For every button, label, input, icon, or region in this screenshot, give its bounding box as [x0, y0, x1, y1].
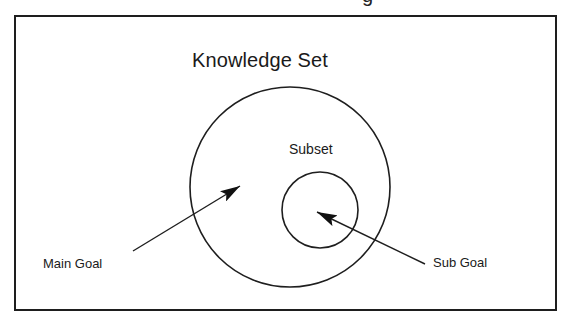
main-goal-label: Main Goal	[43, 257, 102, 270]
sub-goal-arrow	[317, 212, 425, 264]
subset-label: Subset	[289, 142, 333, 156]
diagram-title: Knowledge Set	[192, 50, 328, 70]
subset-circle	[282, 172, 358, 248]
knowledge-set-diagram: g Knowledge Set Subset Main Goal Sub Goa…	[0, 0, 566, 321]
sub-goal-label: Sub Goal	[433, 256, 487, 269]
main-goal-arrow	[133, 186, 240, 251]
